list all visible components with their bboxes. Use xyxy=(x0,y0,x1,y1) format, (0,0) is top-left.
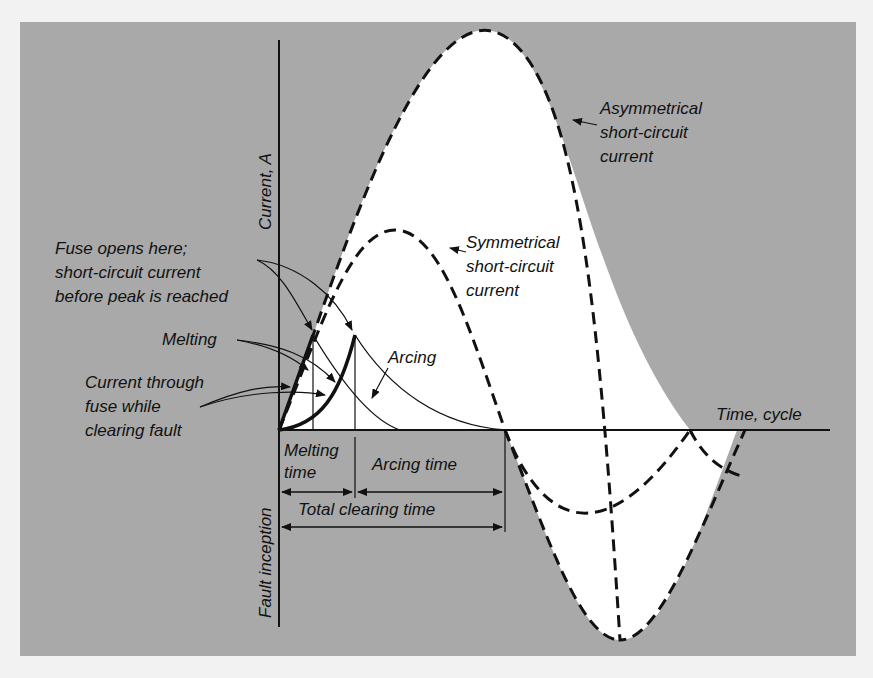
current-through-fuse-line2: fuse while xyxy=(85,397,161,416)
melting-time-line1: Melting xyxy=(284,441,339,460)
curve-fills xyxy=(279,30,737,640)
symmetrical-line1: Symmetrical xyxy=(466,233,561,252)
fuse-opens-line1: Fuse opens here; xyxy=(55,239,188,258)
asymmetrical-line2: short-circuit xyxy=(600,123,689,142)
arcing-time-label: Arcing time xyxy=(371,455,457,474)
fuse-clearing-diagram: Current, A Fault inception Time, cycle F… xyxy=(0,0,873,678)
y-axis-label: Current, A xyxy=(256,153,275,230)
total-clearing-time-label: Total clearing time xyxy=(298,500,435,519)
symmetrical-line3: current xyxy=(466,281,520,300)
melting-time-line2: time xyxy=(284,463,316,482)
symmetrical-line2: short-circuit xyxy=(466,257,555,276)
x-axis-label: Time, cycle xyxy=(716,405,802,424)
current-through-fuse-line1: Current through xyxy=(85,373,204,392)
fault-inception-label: Fault inception xyxy=(256,507,275,618)
fuse-opens-line2: short-circuit current xyxy=(55,263,202,282)
asymmetrical-line1: Asymmetrical xyxy=(599,99,703,118)
melting-label: Melting xyxy=(162,330,217,349)
current-through-fuse-line3: clearing fault xyxy=(85,421,183,440)
fuse-opens-line3: before peak is reached xyxy=(55,287,228,306)
asymmetrical-line3: current xyxy=(600,147,654,166)
arcing-label: Arcing xyxy=(387,348,437,367)
